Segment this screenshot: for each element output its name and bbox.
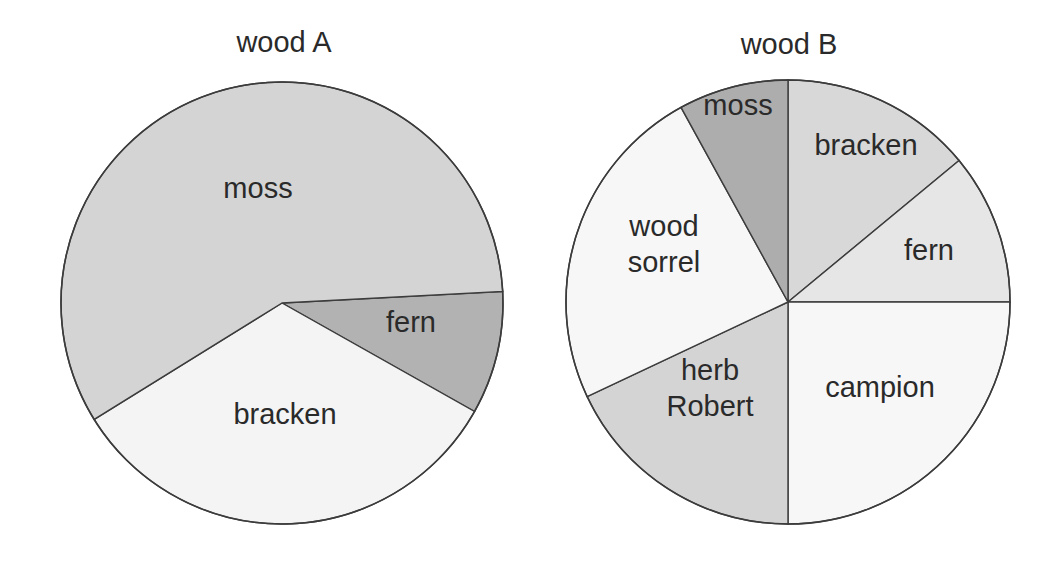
slice-label-moss: moss	[703, 89, 772, 121]
slice-label-fern: fern	[386, 306, 436, 338]
pie-slice-campion	[788, 302, 1010, 524]
slice-label-moss: moss	[223, 172, 292, 204]
chart-title-wood-a: wood A	[235, 26, 332, 58]
slice-label-fern: fern	[904, 234, 954, 266]
pie-chart-wood-b: wood B brackenferncampionherbRobertwoods…	[566, 28, 1010, 524]
slice-label-bracken: bracken	[233, 398, 336, 430]
slice-label-bracken: bracken	[814, 129, 917, 161]
pie-slices-wood-b	[566, 80, 1010, 524]
chart-title-wood-b: wood B	[740, 28, 838, 60]
pie-chart-wood-a: wood A fernbrackenmoss	[61, 26, 503, 524]
slice-label-campion: campion	[825, 371, 935, 403]
pie-slices-wood-a	[61, 82, 503, 524]
pie-charts-figure: wood A fernbrackenmoss wood B brackenfer…	[0, 0, 1058, 564]
